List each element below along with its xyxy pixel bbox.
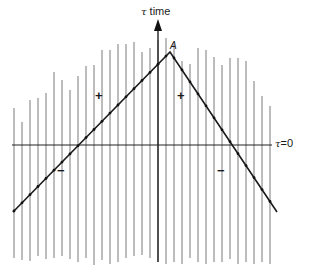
event-dot [205,104,208,107]
minus-sign-lower-right: − [217,164,225,177]
event-dot [157,63,160,66]
event-dot [181,69,184,72]
event-dot [13,210,16,213]
minus-sign-lower-left: − [57,164,65,177]
vertical-worldlines [14,38,270,265]
event-dot [173,57,176,60]
event-dot [125,95,128,98]
event-dot [21,201,24,204]
event-dot [197,93,200,96]
event-dot [221,128,224,131]
tau-zero-label: τ=0 [275,138,293,149]
event-dot [165,55,168,58]
event-dot [253,176,256,179]
event-dot [245,164,248,167]
event-dot [101,120,104,123]
event-dot [189,81,192,84]
event-dot [85,136,88,139]
light-cone-diagonal [13,52,277,212]
time-axis-arrow-icon [154,19,162,31]
event-dot [117,104,120,107]
time-axis-label: τ time [141,6,170,17]
event-dot [109,112,112,115]
worldline-diagram [0,0,310,276]
event-dot [229,140,232,143]
event-dot [269,200,272,203]
event-dot [213,116,216,119]
event-dot [69,153,72,156]
event-dot [29,193,32,196]
peak-label-a: A [170,41,177,51]
event-dot [53,169,56,172]
event-dot [37,185,40,188]
event-dot [141,79,144,82]
event-dot [237,152,240,155]
event-dot [93,128,96,131]
event-dot [77,144,80,147]
event-dot [45,177,48,180]
plus-sign-upper-right: + [177,89,185,102]
plus-sign-upper-left: + [95,89,103,102]
event-dot [261,188,264,191]
event-dot [149,71,152,74]
event-dot [133,87,136,90]
